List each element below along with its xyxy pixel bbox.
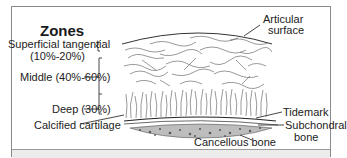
- zone-label-middle: Middle (40%-60%): [20, 72, 110, 83]
- zones-title: Zones: [40, 22, 84, 39]
- label-calcified-cartilage: Calcified cartilage: [34, 120, 121, 131]
- zone-label-superficial: Superficial tangential: [8, 39, 110, 50]
- label-tidemark: Tidemark: [283, 107, 328, 118]
- zone-label-deep: Deep (30%): [52, 104, 111, 115]
- zone-label-superficial-percent: (10%-20%): [30, 51, 85, 62]
- label-subchondral-bone: bone: [294, 132, 318, 143]
- label-subchondral: Subchondral: [285, 120, 347, 131]
- articular-surface-curve: [122, 33, 272, 44]
- label-articular-surface: surface: [268, 25, 304, 36]
- label-cancellous-bone: Cancellous bone: [194, 137, 276, 148]
